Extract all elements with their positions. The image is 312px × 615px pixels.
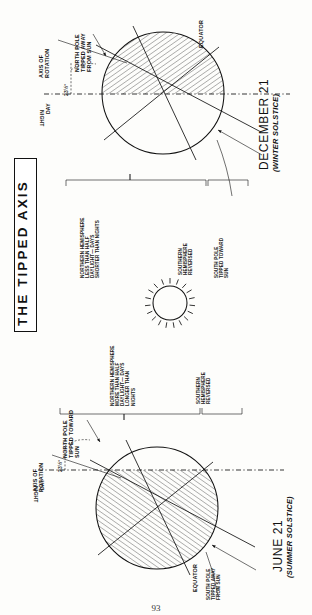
june-southern-hemisphere-note: SOUTHERN HEMISPHERE REVERSED	[196, 372, 211, 404]
december-equator-label: EQUATOR	[198, 20, 204, 48]
june-south-pole-leader	[212, 545, 256, 570]
december-hemisphere-bracket	[66, 174, 206, 186]
december-axis-of-rotation-label: AXIS OF ROTATION	[38, 49, 50, 78]
december-southern-bracket	[208, 180, 248, 186]
june-northern-hemisphere-note: NORTHERN HEMISPHERE MORE THAN HALF DAYLI…	[110, 345, 136, 406]
december-south-pole-leader	[218, 130, 262, 155]
june-night-label: NIGHT	[32, 486, 38, 503]
december-southern-hemisphere-note: SOUTHERN HEMISPHERE REVERSED	[178, 243, 193, 275]
december-tilt-angle-label: 23½°	[64, 83, 70, 96]
page-number: 93	[0, 603, 312, 613]
june-day-label: DAY	[40, 479, 46, 490]
june-caption: JUNE 21	[272, 520, 285, 572]
december-north-pole-label: NORTH POLE TIPPED AWAY FROM SUN	[74, 33, 92, 72]
figure-page: THE TIPPED AXIS AXIS OF ROTATION 23½° DA…	[0, 0, 312, 615]
december-night-shading	[82, 20, 244, 94]
june-tilt-angle-label: 23½°	[58, 459, 64, 472]
december-day-label: DAY	[46, 103, 52, 114]
june-hemisphere-bracket	[60, 408, 200, 420]
june-north-pole-leader	[87, 420, 100, 442]
june-equator-label: EQUATOR	[192, 564, 198, 592]
june-north-pole-label: NORTH POLE TIPPED TOWARD SUN	[62, 410, 80, 458]
december-south-pole-curve	[217, 140, 232, 196]
december-caption: DECEMBER 21	[258, 79, 271, 170]
december-subcaption: (WINTER SOLSTICE)	[272, 94, 280, 172]
page-title: THE TIPPED AXIS	[15, 180, 30, 326]
june-subcaption: (SUMMER SOLSTICE)	[286, 496, 294, 578]
june-southern-bracket	[202, 408, 242, 414]
june-south-pole-label: SOUTH POLE TIPPED AWAY FROM SUN	[206, 568, 221, 600]
december-northern-hemisphere-note: NORTHERN HEMISPHERE LESS THAN HALF DAYLI…	[80, 217, 101, 278]
december-south-pole-label: SOUTH POLE TIPPED TOWARD SUN	[214, 238, 229, 278]
december-axis-leader	[58, 40, 127, 63]
december-north-pole-leader	[93, 34, 106, 56]
december-night-label: NIGHT	[38, 110, 44, 127]
sun-icon	[145, 278, 195, 328]
